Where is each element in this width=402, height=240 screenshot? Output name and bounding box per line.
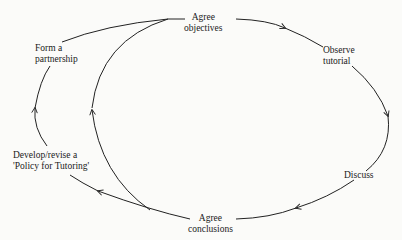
node-agree-objectives: Agree objectives [184, 12, 223, 34]
edge-partnership-to-objectives [62, 19, 168, 42]
node-label-line: objectives [184, 23, 223, 34]
node-label-line: conclusions [188, 224, 233, 235]
node-label-line: Observe [323, 45, 355, 56]
diagram-edges [0, 0, 402, 240]
node-label-line: Agree [184, 12, 223, 23]
node-label-line: 'Policy for Tutoring' [13, 161, 89, 172]
node-label-line: Develop/revise a [13, 150, 89, 161]
edge-objectives-to-observe [236, 19, 285, 28]
node-label-line: Form a [35, 43, 78, 54]
node-observe-tutorial: Observe tutorial [323, 45, 355, 67]
node-label-line: Agree [188, 213, 233, 224]
node-form-partnership: Form a partnership [35, 43, 78, 65]
node-label-line: Discuss [344, 170, 374, 181]
node-discuss: Discuss [344, 170, 374, 181]
node-develop-policy: Develop/revise a 'Policy for Tutoring' [13, 150, 89, 172]
edge-develop-to-partnership [35, 108, 47, 146]
node-label-line: tutorial [323, 56, 355, 67]
edge-observe-to-discuss [352, 66, 388, 116]
node-label-line: partnership [35, 54, 78, 65]
edge-discuss-to-conclusions [296, 180, 354, 208]
node-agree-conclusions: Agree conclusions [188, 213, 233, 235]
edge-conclusions-to-objectives-inner [92, 110, 150, 210]
